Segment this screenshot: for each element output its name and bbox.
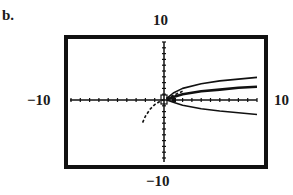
window-border [66,37,266,167]
curve-lower-curve [167,100,257,115]
x-min-label: −10 [27,93,51,108]
part-label: b. [2,8,14,23]
y-min-label: −10 [146,174,170,189]
plot-area [64,35,268,169]
y-max-label: 10 [153,13,168,28]
y-min-text: −10 [146,173,170,189]
graph-window [64,35,268,169]
trace-marker [172,98,176,102]
x-max-label: 10 [274,93,289,108]
